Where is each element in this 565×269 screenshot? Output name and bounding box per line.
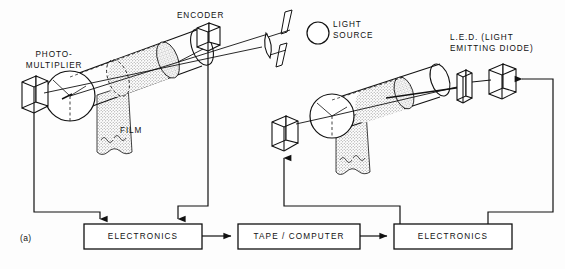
label-electronics-right: ELECTRONICS: [394, 232, 512, 241]
label-electronics-left: ELECTRONICS: [84, 232, 202, 241]
wire-pmt-to-electronics-left: [34, 113, 100, 219]
photomultiplier-box: [22, 76, 48, 113]
beam-to-slit: [268, 30, 290, 37]
figure-container: PHOTO- MULTIPLIER ENCODER LIGHT SOURCE L…: [0, 0, 565, 269]
label-tape-computer: TAPE / COMPUTER: [238, 232, 360, 241]
slit-aperture-lower: [276, 43, 287, 67]
wire-electronics-right-to-led: [488, 79, 553, 224]
figure-id-label: (a): [20, 233, 32, 243]
label-photomultiplier: PHOTO- MULTIPLIER: [16, 50, 92, 71]
led-box: [489, 64, 516, 99]
encoder-box: [197, 23, 220, 51]
label-encoder: ENCODER: [177, 11, 224, 22]
left-film-drum: [45, 26, 218, 121]
label-led: L.E.D. (LIGHT EMITTING DIODE): [450, 33, 534, 54]
slit-aperture-upper: [281, 10, 292, 34]
led-window-link: [472, 80, 491, 82]
right-detector-box: [272, 116, 298, 151]
led-window-plate: [457, 70, 472, 103]
label-light-source: LIGHT SOURCE: [333, 20, 373, 41]
light-source-circle: [307, 22, 329, 44]
label-film: FILM: [120, 126, 142, 137]
right-film-drum: [310, 62, 454, 138]
wire-encoder-to-electronics-left: [178, 51, 208, 219]
